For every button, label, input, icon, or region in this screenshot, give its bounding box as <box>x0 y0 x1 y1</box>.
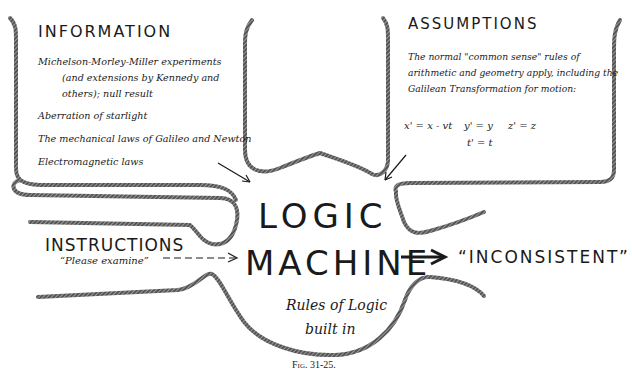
information-item: The mechanical laws of Galileo and Newto… <box>38 133 251 144</box>
information-item: Electromagnetic laws <box>38 156 143 167</box>
information-arrow <box>218 163 250 182</box>
instructions-title: INSTRUCTIONS <box>45 235 184 255</box>
assumptions-box-left-wall <box>320 18 388 175</box>
information-title: INFORMATION <box>38 22 172 41</box>
built-in-label: built in <box>305 321 356 337</box>
assumptions-line: arithmetic and geometry apply, including… <box>408 67 618 78</box>
information-item: (and extensions by Kennedy and <box>62 72 219 83</box>
information-item: Michelson-Morley-Miller experiments <box>38 56 222 67</box>
assumptions-line: Galilean Transformation for motion: <box>408 83 576 94</box>
lower-left-channel-wall <box>38 274 484 355</box>
information-item: others); null result <box>62 88 153 99</box>
assumptions-title: ASSUMPTIONS <box>408 15 538 33</box>
information-item: Aberration of starlight <box>38 110 147 121</box>
upper-right-channel-wall <box>396 192 484 233</box>
information-box-right-wall <box>245 20 320 171</box>
information-box-outline <box>10 18 236 200</box>
logic-machine-label-line2: MACHINE <box>245 243 431 283</box>
equation-t: t' = t <box>467 137 493 148</box>
assumptions-box-outline <box>396 20 620 192</box>
rules-of-logic-label: Rules of Logic <box>286 297 387 313</box>
instructions-quote: “Please examine” <box>60 255 149 266</box>
assumptions-line: The normal "common sense" rules of <box>408 51 580 62</box>
equation-y: y' = y <box>464 120 493 131</box>
equation-z: z' = z <box>508 120 536 131</box>
equation-x: x' = x - vt <box>404 120 452 131</box>
figure-caption: Fig. 31-25. <box>292 359 336 370</box>
output-inconsistent-label: “INCONSISTENT” <box>458 247 630 267</box>
logic-machine-label-line1: LOGIC <box>258 196 388 236</box>
